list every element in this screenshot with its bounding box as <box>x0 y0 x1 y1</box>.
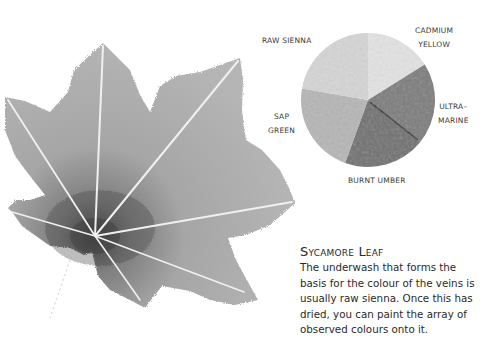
label-cadmium-yellow: CADMIUM YELLOW <box>415 24 453 52</box>
leaf-stem <box>50 260 70 318</box>
caption-title: Sycamore Leaf <box>300 244 484 260</box>
label-cadmium-text-2: YELLOW <box>415 38 453 52</box>
label-ultramarine-text-1: ULTRA– <box>438 100 469 114</box>
colour-pie-chart <box>301 33 435 167</box>
label-burnt-umber: BURNT UMBER <box>348 174 406 188</box>
label-cadmium-text-1: CADMIUM <box>415 24 453 38</box>
label-sap-green: SAP GREEN <box>268 110 295 138</box>
label-sap-green-text-1: SAP <box>268 110 295 124</box>
label-burnt-umber-text: BURNT UMBER <box>348 174 406 188</box>
leaf-shape <box>5 43 295 308</box>
label-raw-sienna: RAW SIENNA <box>262 34 312 48</box>
label-ultramarine: ULTRA– MARINE <box>438 100 469 128</box>
caption: Sycamore Leaf The underwash that forms t… <box>300 244 484 338</box>
sycamore-leaf <box>5 43 295 318</box>
label-ultramarine-text-2: MARINE <box>438 114 469 128</box>
label-raw-sienna-text: RAW SIENNA <box>262 34 312 48</box>
caption-body: The underwash that forms the basis for t… <box>300 260 484 338</box>
label-sap-green-text-2: GREEN <box>268 124 295 138</box>
